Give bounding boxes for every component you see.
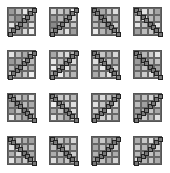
tile-cell	[8, 151, 15, 158]
tile-cell	[112, 51, 119, 58]
tile-cell	[112, 151, 119, 158]
tile-cell	[8, 114, 15, 121]
tile-cell	[50, 108, 57, 115]
diagonal-mark	[158, 32, 163, 37]
tile-cell	[57, 157, 64, 164]
tile-cell	[92, 65, 99, 72]
tile-cell	[8, 157, 15, 164]
tile-cell	[154, 114, 161, 121]
tile-cell	[112, 8, 119, 15]
tile-cell	[50, 58, 57, 65]
tile-cell	[92, 137, 99, 144]
tile-cell	[57, 15, 64, 22]
tile-cell	[28, 94, 35, 101]
pattern-tile	[133, 93, 162, 122]
tile-cell	[15, 114, 22, 121]
tile-cell	[112, 58, 119, 65]
tile-cell	[134, 22, 141, 29]
tile-cell	[15, 58, 22, 65]
tile-cell	[15, 15, 22, 22]
tile-cell	[134, 144, 141, 151]
tile-cell	[92, 22, 99, 29]
diagonal-mark	[116, 32, 121, 37]
tile-cell	[106, 51, 113, 58]
pattern-tile	[91, 136, 120, 165]
tile-cell	[22, 28, 29, 35]
tile-cell	[106, 157, 113, 164]
tile-cell	[50, 15, 57, 22]
tile-cell	[50, 157, 57, 164]
tile-cell	[50, 151, 57, 158]
diagonal-mark	[158, 94, 163, 99]
tile-cell	[92, 94, 99, 101]
pattern-tile	[49, 136, 78, 165]
pattern-tile	[7, 7, 36, 36]
pattern-tile	[91, 7, 120, 36]
tile-cell	[134, 71, 141, 78]
tile-cell	[28, 65, 35, 72]
tile-cell	[99, 94, 106, 101]
diagonal-mark	[74, 51, 79, 56]
tile-cell	[64, 137, 71, 144]
pattern-tile	[7, 136, 36, 165]
tile-cell	[28, 101, 35, 108]
tile-cell	[112, 114, 119, 121]
tile-cell	[141, 137, 148, 144]
diagonal-mark	[74, 161, 79, 166]
tile-cell	[15, 51, 22, 58]
tile-cell	[28, 71, 35, 78]
tile-cell	[92, 71, 99, 78]
diagonal-mark	[32, 51, 37, 56]
diagonal-mark	[32, 161, 37, 166]
tile-cell	[8, 58, 15, 65]
diagonal-mark	[74, 8, 79, 13]
tile-cell	[99, 101, 106, 108]
tile-cell	[8, 51, 15, 58]
tile-cell	[22, 71, 29, 78]
tile-cell	[50, 114, 57, 121]
tile-cell	[106, 8, 113, 15]
pattern-tile	[49, 7, 78, 36]
tile-cell	[70, 22, 77, 29]
tile-cell	[92, 28, 99, 35]
tile-cell	[57, 58, 64, 65]
tile-cell	[8, 8, 15, 15]
tile-cell	[141, 28, 148, 35]
tile-cell	[57, 114, 64, 121]
diagonal-mark	[116, 137, 121, 142]
tile-cell	[154, 58, 161, 65]
tile-cell	[50, 8, 57, 15]
tile-cell	[70, 28, 77, 35]
tile-cell	[106, 114, 113, 121]
tile-cell	[141, 94, 148, 101]
diagonal-mark	[158, 137, 163, 142]
tile-cell	[154, 8, 161, 15]
tile-cell	[112, 15, 119, 22]
tile-cell	[141, 144, 148, 151]
tile-cell	[22, 137, 29, 144]
tile-cell	[50, 51, 57, 58]
tile-cell	[70, 144, 77, 151]
tile-cell	[70, 94, 77, 101]
tile-cell	[99, 71, 106, 78]
pattern-tile	[7, 50, 36, 79]
tile-cell	[15, 157, 22, 164]
tile-cell	[99, 144, 106, 151]
tile-cell	[57, 8, 64, 15]
tile-cell	[57, 51, 64, 58]
pattern-tile	[133, 136, 162, 165]
tile-cell	[70, 71, 77, 78]
tile-cell	[64, 71, 71, 78]
pattern-tile	[7, 93, 36, 122]
tile-cell	[134, 28, 141, 35]
diagonal-mark	[32, 118, 37, 123]
pattern-tile	[49, 93, 78, 122]
tile-cell	[64, 28, 71, 35]
tile-cell	[92, 101, 99, 108]
tile-cell	[28, 22, 35, 29]
tile-cell	[134, 101, 141, 108]
tile-cell	[22, 94, 29, 101]
tile-cell	[134, 94, 141, 101]
diagonal-mark	[116, 75, 121, 80]
tile-cell	[154, 108, 161, 115]
